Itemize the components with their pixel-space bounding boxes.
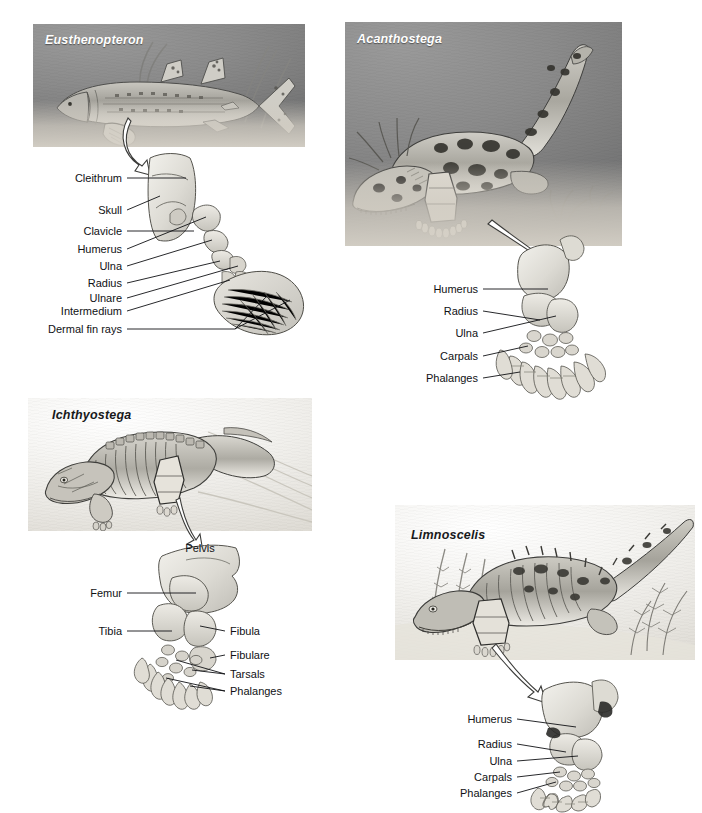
eusthenopteron-fin-skeleton [148,154,303,335]
label-tarsals: Tarsals [230,669,265,680]
label-skull: Skull [98,205,122,216]
pectoral-fin-highlight [103,123,135,146]
label-fibulare: Fibulare [230,650,270,661]
label-phalanges-ic: Phalanges [230,686,282,697]
label-ulna-eu: Ulna [99,261,122,272]
label-carpals-li: Carpals [474,772,512,783]
limnoscelis-limb-skeleton [531,680,618,812]
label-fibula: Fibula [230,626,260,637]
front-digits [93,521,112,531]
leader-lines-ichthyostega [127,593,225,691]
carpal-bones [520,331,579,358]
eight-digits [416,220,467,238]
phalanges [134,658,212,709]
bottom-plants [550,186,613,222]
phalanges [496,350,605,399]
dermal-fin-rays [222,290,296,335]
ichthyostega-limb-skeleton [134,545,239,709]
genus-label-limnoscelis: Limnoscelis [411,528,485,542]
genus-label-ichthyostega: Ichthyostega [52,408,132,422]
external-gills [349,118,419,170]
label-carpals-ac: Carpals [440,351,478,362]
label-cleithrum: Cleithrum [75,173,122,184]
label-tibia: Tibia [99,626,122,637]
label-phalanges-ac: Phalanges [426,373,478,384]
label-humerus-eu: Humerus [77,244,122,255]
scene-acanthostega: Acanthostega [345,22,622,246]
forelimb-highlight [425,172,457,222]
label-clavicle: Clavicle [83,226,122,237]
ichthyostega-animal [45,428,274,531]
scene-ichthyostega: Ichthyostega [28,398,312,531]
label-radius-ac: Radius [444,306,478,317]
label-intermedium: Intermedium [61,306,122,317]
leader-lines-acanthostega [483,289,556,378]
label-pelvis: Pelvis [185,543,214,554]
forelimb-highlight [473,599,509,645]
leader-lines-limnoscelis [517,719,578,793]
shadow-marks [546,702,612,739]
carpal-bones [546,767,600,791]
label-ulna-ac: Ulna [455,328,478,339]
acanthostega-animal [349,45,593,238]
genus-label-eusthenopteron: Eusthenopteron [45,33,144,47]
label-radius-li: Radius [478,739,512,750]
leader-lines-eusthenopteron [127,178,290,329]
phalanges [531,788,601,812]
label-humerus-ac: Humerus [433,284,478,295]
acanthostega-limb-skeleton [496,236,605,399]
genus-label-acanthostega: Acanthostega [357,32,442,46]
label-ulna-li: Ulna [489,756,512,767]
label-radius-eu: Radius [88,278,122,289]
tarsal-bones [156,645,202,682]
figure-root: Eusthenopteron [0,0,702,813]
label-ulnare: Ulnare [90,293,122,304]
eusthenopteron-fish [57,58,295,146]
label-dermal-fin-rays: Dermal fin rays [48,324,122,335]
label-phalanges-li: Phalanges [460,788,512,799]
scene-eusthenopteron: Eusthenopteron [33,24,305,147]
label-humerus-li: Humerus [467,714,512,725]
scene-limnoscelis: Limnoscelis [395,505,695,660]
label-femur: Femur [90,588,122,599]
